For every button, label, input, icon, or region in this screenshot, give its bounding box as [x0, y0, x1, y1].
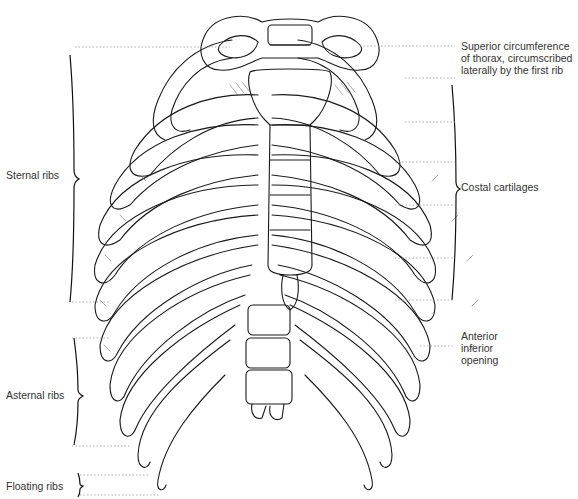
- asternal-ribs-bracket: [74, 338, 83, 445]
- vertebral-column: [246, 305, 292, 420]
- label-anterior-inferior-opening: Anterior inferior opening: [461, 330, 498, 366]
- right-ribs: [272, 40, 435, 490]
- label-asternal-ribs: Asternal ribs: [6, 389, 64, 401]
- label-costal-cartilages: Costal cartilages: [461, 181, 539, 193]
- left-brackets: [70, 55, 83, 497]
- label-floating-ribs: Floating ribs: [6, 480, 63, 492]
- first-rib-ring: [201, 16, 379, 70]
- label-superior-circumference: Superior circumference of thorax, circum…: [461, 40, 572, 76]
- floating-ribs-bracket: [78, 473, 83, 497]
- leader-lines: [72, 46, 455, 495]
- label-sternal-ribs: Sternal ribs: [6, 169, 59, 181]
- costal-cartilages-bracket: [452, 85, 460, 300]
- left-ribs: [95, 40, 258, 490]
- sternal-ribs-bracket: [70, 55, 79, 302]
- right-brackets: [452, 85, 460, 300]
- sternum: [249, 69, 332, 310]
